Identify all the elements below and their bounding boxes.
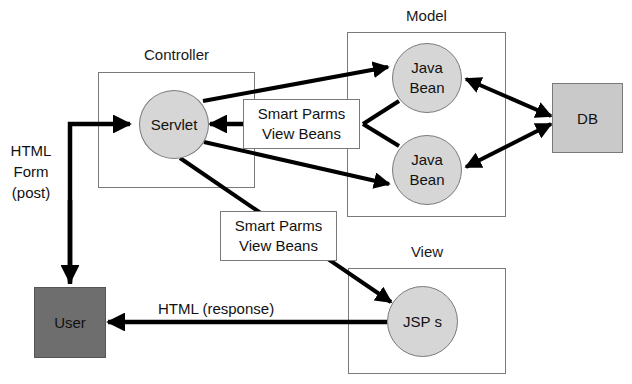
html-form-line3: (post) (6, 182, 56, 203)
java-bean-node-2[interactable]: Java Bean (392, 135, 462, 205)
html-form-line2: Form (6, 161, 56, 182)
db-label: DB (577, 110, 598, 127)
smart-parms-upper-line2: View Beans (262, 124, 341, 144)
jsps-node[interactable]: JSP s (387, 286, 458, 357)
edge-form-post (70, 124, 130, 284)
smart-parms-label-upper: Smart Parms View Beans (243, 99, 360, 149)
html-response-label: HTML (response) (158, 298, 274, 319)
user-node[interactable]: User (34, 287, 106, 358)
db-node[interactable]: DB (552, 83, 623, 153)
edge-bean1-db (466, 79, 551, 116)
user-label: User (54, 314, 86, 331)
smart-parms-lower-line2: View Beans (239, 236, 318, 256)
edge-bean1-merge (363, 101, 399, 124)
jsps-label: JSP s (403, 312, 442, 332)
java-bean-2-line2: Bean (409, 170, 444, 190)
html-form-post-label: HTML Form (post) (6, 140, 56, 203)
edge-servlet-bean1 (203, 67, 388, 101)
java-bean-2-line1: Java (409, 150, 444, 170)
edge-bean2-merge (363, 124, 399, 146)
java-bean-1-line2: Bean (409, 78, 444, 98)
edge-bean2-db (466, 124, 551, 167)
smart-parms-upper-line1: Smart Parms (258, 104, 346, 124)
servlet-node[interactable]: Servlet (139, 90, 209, 159)
servlet-label: Servlet (151, 115, 198, 135)
java-bean-1-line1: Java (409, 58, 444, 78)
java-bean-node-1[interactable]: Java Bean (392, 43, 462, 113)
smart-parms-lower-line1: Smart Parms (235, 216, 323, 236)
html-form-line1: HTML (6, 140, 56, 161)
smart-parms-label-lower: Smart Parms View Beans (220, 211, 337, 261)
